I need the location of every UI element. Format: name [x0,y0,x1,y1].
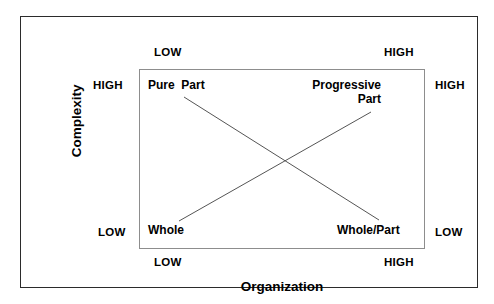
quadrant-label-pure-part: Pure Part [148,79,205,93]
scale-label-left-top: HIGH [93,79,123,92]
quadrant-box [139,69,425,249]
scale-label-left-bottom: LOW [98,226,126,239]
diagram-canvas: LOW HIGH HIGH LOW HIGH LOW LOW HIGH Pure… [0,0,494,304]
scale-label-right-top: HIGH [435,79,465,92]
outer-frame: LOW HIGH HIGH LOW HIGH LOW LOW HIGH Pure… [20,16,478,288]
quadrant-label-whole: Whole [148,224,184,238]
scale-label-right-bottom: LOW [435,226,463,239]
scale-label-top-left: LOW [154,46,182,59]
scale-label-bottom-right: HIGH [384,256,414,269]
quadrant-label-progressive-part: Progressive Part [312,79,381,107]
y-axis-title: Complexity [69,61,85,181]
x-axis-title: Organization [139,279,425,295]
quadrant-label-whole-part: Whole/Part [337,224,400,238]
scale-label-top-right: HIGH [384,46,414,59]
scale-label-bottom-left: LOW [154,256,182,269]
